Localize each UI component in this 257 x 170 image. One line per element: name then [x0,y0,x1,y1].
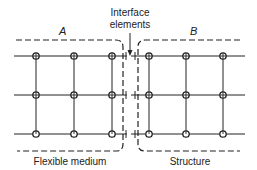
interface-elements-label: Interface elements [107,8,153,30]
interface-label-line1: Interface [107,8,153,18]
flexible-medium-caption: Flexible medium [25,157,115,167]
structure-caption: Structure [160,157,220,167]
region-b-label: B [190,26,197,37]
region-a-label: A [59,26,66,37]
interface-arrow-icon [128,33,133,56]
interface-label-line2: elements [107,20,153,30]
diagram-canvas: Interface elements A B Flexible medium S… [0,0,257,170]
node-cross-marks [33,53,226,134]
